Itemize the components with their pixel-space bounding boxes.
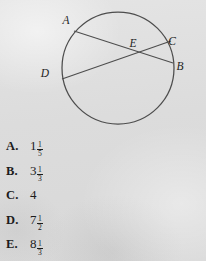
chord-ab — [74, 31, 173, 63]
answer-choice-a[interactable]: A. 1 1 5 — [6, 138, 206, 163]
point-label-c: C — [168, 35, 176, 47]
choice-a-fraction: 1 5 — [37, 141, 43, 157]
choice-letter-c: C. — [6, 188, 30, 203]
choice-d-fraction: 1 2 — [37, 215, 43, 231]
choice-e-denominator: 3 — [37, 248, 43, 257]
choice-letter-b: B. — [6, 164, 30, 179]
choice-b-whole: 3 — [30, 163, 37, 179]
point-label-e: E — [128, 37, 136, 49]
answer-choice-b[interactable]: B. 3 1 3 — [6, 163, 206, 188]
choice-b-numerator: 1 — [37, 166, 43, 174]
answer-choice-d[interactable]: D. 7 1 2 — [6, 212, 206, 237]
point-label-b: B — [176, 60, 183, 72]
choice-d-numerator: 1 — [37, 215, 43, 223]
point-label-a: A — [61, 14, 70, 26]
choice-b-fraction: 1 3 — [37, 166, 43, 182]
choice-e-numerator: 1 — [37, 240, 43, 248]
geometry-figure: A E C D B — [0, 0, 206, 136]
choice-d-whole: 7 — [30, 212, 37, 228]
choice-letter-a: A. — [6, 139, 30, 154]
choice-b-denominator: 3 — [37, 174, 43, 183]
answer-choice-c[interactable]: C. 4 — [6, 187, 206, 212]
choice-a-whole: 1 — [30, 138, 37, 154]
choice-value-e: 8 1 3 — [30, 236, 43, 258]
choice-a-denominator: 5 — [37, 149, 43, 158]
choice-letter-d: D. — [6, 213, 30, 228]
choice-value-c: 4 — [30, 187, 37, 203]
chord-dc — [62, 41, 171, 79]
choice-value-d: 7 1 2 — [30, 212, 43, 234]
choice-value-b: 3 1 3 — [30, 163, 43, 185]
choice-d-denominator: 2 — [37, 223, 43, 232]
choice-letter-e: E. — [6, 237, 30, 252]
choice-value-a: 1 1 5 — [30, 138, 43, 160]
choice-e-fraction: 1 3 — [37, 240, 43, 256]
choice-e-whole: 8 — [30, 236, 37, 252]
circle-diagram-svg: A E C D B — [0, 0, 206, 136]
answer-choice-e[interactable]: E. 8 1 3 — [6, 236, 206, 261]
answer-choice-list: A. 1 1 5 B. 3 1 3 C. 4 D. 7 1 — [0, 136, 206, 261]
choice-c-whole: 4 — [30, 187, 37, 203]
circle-outline — [62, 12, 174, 124]
point-label-d: D — [40, 67, 50, 79]
choice-a-numerator: 1 — [37, 141, 43, 149]
